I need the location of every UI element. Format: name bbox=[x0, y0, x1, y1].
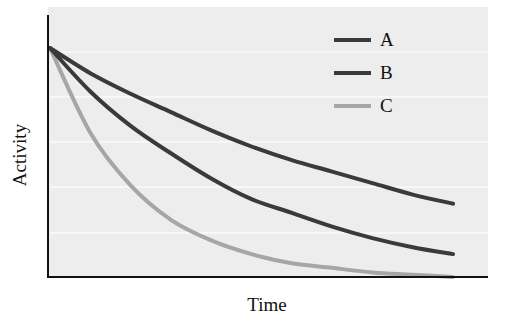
legend-label-c: C bbox=[380, 95, 393, 117]
line-chart bbox=[0, 0, 514, 335]
legend-label-a: A bbox=[380, 29, 394, 51]
legend-label-b: B bbox=[380, 62, 393, 84]
y-axis-label: Activity bbox=[9, 124, 31, 186]
x-axis-label: Time bbox=[247, 294, 286, 316]
